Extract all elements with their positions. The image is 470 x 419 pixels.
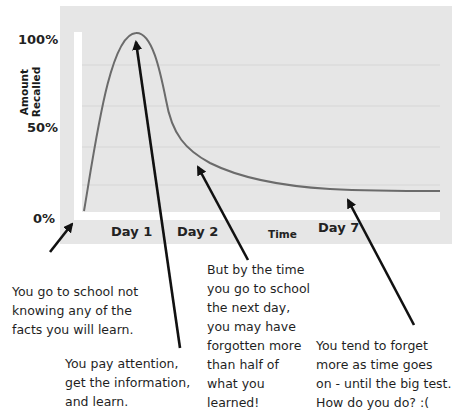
annotation-next-day: But by the time you go to school the nex…	[207, 260, 310, 412]
y-axis	[74, 32, 82, 220]
x-axis	[74, 212, 440, 220]
y-tick-0: 0%	[33, 211, 55, 226]
x-tick-day2: Day 2	[177, 224, 218, 239]
x-axis-title: Time	[268, 228, 297, 240]
annotation-start: You go to school not knowing any of the …	[12, 282, 138, 339]
x-tick-day7: Day 7	[318, 220, 359, 235]
annotation-later: You tend to forget more as time goes on …	[316, 336, 451, 412]
y-tick-50: 50%	[27, 120, 58, 135]
y-tick-100: 100%	[18, 32, 58, 47]
arrow-peak	[136, 42, 180, 348]
y-axis-title: Amount Recalled	[2, 62, 58, 122]
arrow-start	[50, 224, 72, 252]
x-tick-day1: Day 1	[111, 224, 152, 239]
annotation-peak: You pay attention, get the information, …	[65, 354, 190, 411]
gridlines	[82, 65, 440, 185]
